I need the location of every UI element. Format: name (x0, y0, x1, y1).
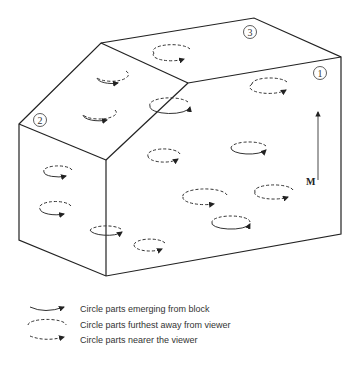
loop (134, 239, 165, 251)
loop (83, 110, 116, 121)
svg-text:M: M (306, 176, 316, 187)
loop (250, 78, 287, 93)
legend-label: Circle parts nearer the viewer (80, 335, 198, 345)
legend-item-furthest: Circle parts furthest away from viewer (30, 319, 290, 333)
legend-label: Circle parts furthest away from viewer (80, 320, 231, 330)
loop (39, 201, 71, 214)
legend-label: Circle parts emerging from block (80, 304, 210, 314)
legend-item-emerging: Circle parts emerging from block (30, 303, 290, 317)
loop (212, 216, 250, 229)
legend-item-nearer: Circle parts nearer the viewer (30, 334, 290, 348)
face-label-2: 2 (34, 114, 47, 127)
loop (97, 71, 128, 84)
loop (231, 142, 266, 154)
loop (153, 45, 190, 61)
face-label-1: 1 (314, 67, 327, 80)
magnetization-arrow: M (306, 112, 318, 187)
svg-text:2: 2 (38, 115, 43, 126)
loop (255, 185, 293, 199)
face-label-3: 3 (244, 26, 257, 39)
svg-text:3: 3 (248, 27, 253, 38)
svg-text:1: 1 (318, 68, 323, 79)
loop (183, 189, 227, 205)
loop (148, 149, 180, 162)
block-outline (19, 18, 341, 276)
loop (44, 166, 72, 177)
